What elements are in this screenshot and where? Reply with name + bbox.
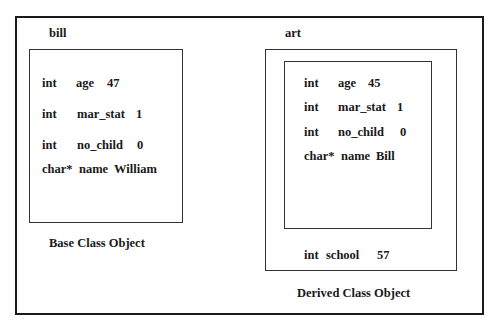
base-object-caption: Base Class Object: [49, 236, 145, 250]
derived-object-caption: Derived Class Object: [297, 286, 410, 300]
derived-field-name: char* name Bill: [304, 149, 310, 205]
derived-object-name: art: [285, 26, 301, 40]
base-object-name: bill: [49, 26, 66, 40]
base-field-name: char* name William: [42, 162, 48, 218]
